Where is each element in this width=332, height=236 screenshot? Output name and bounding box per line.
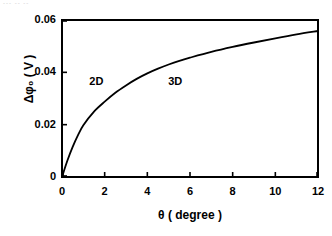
plot-frame: [62, 20, 318, 177]
x-tick-label-3: 6: [175, 185, 205, 197]
x-tick-label-5: 10: [260, 185, 290, 197]
axes-frame: [62, 20, 318, 177]
x-tick-label-4: 8: [218, 185, 248, 197]
y-tick-label-3: 0.06: [8, 13, 56, 25]
x-tick-label-0: 0: [47, 185, 77, 197]
x-axis-title: θ ( degree ): [62, 208, 318, 222]
annotation-2d: 2D: [89, 75, 103, 87]
annotation-3d: 3D: [168, 75, 182, 87]
x-tick-label-2: 4: [132, 185, 162, 197]
figure-container: --- -- -- 00.020.040.06 024681012 2D3D Δ…: [0, 0, 332, 236]
x-tick-label-6: 12: [303, 185, 332, 197]
y-axis-title: Δφ₀ ( V ): [22, 29, 36, 129]
y-tick-label-0: 0: [8, 170, 56, 182]
x-tick-label-1: 2: [90, 185, 120, 197]
